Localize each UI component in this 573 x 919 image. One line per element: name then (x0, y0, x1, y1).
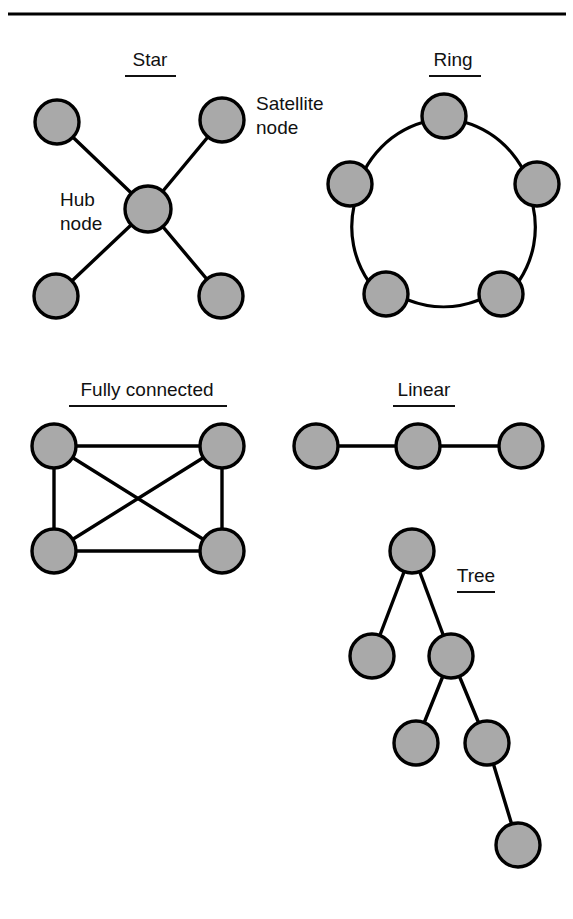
hub-node-annotation-line2: node (60, 213, 102, 234)
hub-node-annotation-line1: Hub (60, 189, 95, 210)
ring-arc (352, 206, 369, 282)
ring-node (479, 272, 523, 316)
ring-label: Ring (433, 49, 472, 70)
fully-connected-label: Fully connected (80, 379, 213, 400)
satellite-node-annotation-line2: node (256, 117, 298, 138)
ring-node (422, 94, 466, 138)
ring-node (328, 162, 372, 206)
diagram-star: Star Hub node Satellite node (34, 49, 324, 318)
star-satellite-node (200, 98, 244, 142)
linear-label: Linear (398, 379, 451, 400)
tree-root-node (390, 529, 434, 573)
tree-edges (372, 551, 518, 845)
fc-node (32, 424, 76, 468)
linear-node (294, 424, 338, 468)
topology-diagram-canvas: Star Hub node Satellite node Ring (0, 0, 573, 919)
fc-node (32, 529, 76, 573)
diagram-ring: Ring (328, 49, 559, 316)
tree-node (465, 721, 509, 765)
tree-leaf-node (496, 823, 540, 867)
network-topology-figure: Star Hub node Satellite node Ring (0, 0, 573, 919)
ring-arc (408, 300, 479, 307)
diagram-fully-connected: Fully connected (32, 379, 244, 573)
star-hub-node (125, 186, 171, 232)
fully-connected-edges (54, 446, 222, 551)
star-satellite-node (199, 274, 243, 318)
linear-node (396, 424, 440, 468)
tree-node (350, 634, 394, 678)
diagram-tree: Tree (350, 529, 540, 867)
star-satellite-node (35, 100, 79, 144)
star-label: Star (133, 49, 169, 70)
diagram-linear: Linear (294, 379, 543, 468)
star-satellite-node (34, 274, 78, 318)
linear-node (499, 424, 543, 468)
tree-node (429, 634, 473, 678)
ring-arc (519, 206, 535, 281)
tree-label: Tree (457, 565, 495, 586)
fc-node (200, 529, 244, 573)
satellite-node-annotation-line1: Satellite (256, 93, 324, 114)
ring-node (364, 272, 408, 316)
tree-node (394, 721, 438, 765)
fc-node (200, 424, 244, 468)
ring-node (515, 162, 559, 206)
